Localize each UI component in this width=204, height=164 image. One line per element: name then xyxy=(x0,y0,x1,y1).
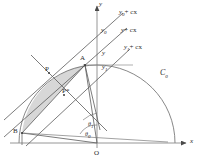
label-curve-c0: C0 xyxy=(160,69,168,79)
label-point-P-star: P* xyxy=(62,88,69,95)
segment-B-to-right xyxy=(22,133,168,142)
label-y-plus-cx: y+ cx xyxy=(121,27,136,34)
label-angle-theta0: θ0 xyxy=(85,131,90,139)
label-point-B: B xyxy=(13,128,18,135)
label-origin-O: O xyxy=(94,150,99,157)
line-y-plus-cx xyxy=(4,28,127,137)
label-x-axis: x xyxy=(190,138,193,145)
label-y0-plus-cx: y0+ cx xyxy=(119,9,137,17)
geometry-figure: y0+ cx y+ cx y1+ cx y0 y y1 A B P P* O x… xyxy=(0,0,204,164)
point-B-dot xyxy=(21,132,23,134)
label-y-axis: y xyxy=(99,1,102,8)
label-y1-intercept: y1 xyxy=(102,64,108,72)
diagram-canvas xyxy=(0,0,204,164)
label-y1-plus-cx: y1+ cx xyxy=(124,44,142,52)
label-y-intercept: y xyxy=(102,50,105,57)
label-point-A: A xyxy=(80,55,85,62)
label-y0-intercept: y0 xyxy=(101,27,107,35)
point-A-dot xyxy=(84,64,86,66)
label-point-P: P xyxy=(45,66,49,73)
label-angle-theta1: θ1 xyxy=(88,121,93,129)
